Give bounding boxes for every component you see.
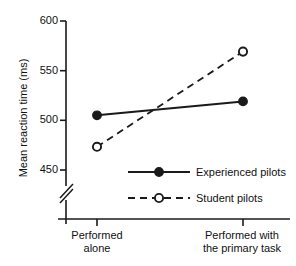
data-point-student-dual bbox=[239, 48, 247, 56]
series-student-pilots-line bbox=[97, 52, 243, 147]
y-tick-label-450: 450 bbox=[30, 163, 58, 175]
chart-figure: 600 550 500 450 Mean reaction time (ms) … bbox=[0, 0, 296, 266]
legend-label-student-pilots: Student pilots bbox=[196, 192, 263, 204]
y-tick-label-500: 500 bbox=[30, 113, 58, 125]
y-tick-label-600: 600 bbox=[30, 14, 58, 26]
x-category-label-performed-with-primary-task: Performed with the primary task bbox=[186, 229, 296, 255]
series-experienced-pilots-line bbox=[97, 101, 243, 115]
data-point-experienced-dual bbox=[239, 97, 248, 106]
x-category-1-line-2: alone bbox=[84, 242, 111, 254]
x-category-2-line-1: Performed with bbox=[205, 229, 279, 241]
x-category-2-line-2: the primary task bbox=[203, 242, 281, 254]
legend-label-experienced-pilots: Experienced pilots bbox=[196, 166, 286, 178]
x-category-1-line-1: Performed bbox=[71, 229, 122, 241]
legend-marker-student bbox=[128, 194, 190, 202]
chart-plot-area bbox=[0, 0, 296, 266]
data-point-experienced-alone bbox=[93, 111, 102, 120]
data-point-student-alone bbox=[93, 143, 101, 151]
legend-marker-experienced bbox=[128, 168, 190, 177]
y-tick-label-550: 550 bbox=[30, 64, 58, 76]
x-category-label-performed-alone: Performed alone bbox=[45, 229, 149, 255]
y-axis-title: Mean reaction time (ms) bbox=[17, 38, 29, 198]
